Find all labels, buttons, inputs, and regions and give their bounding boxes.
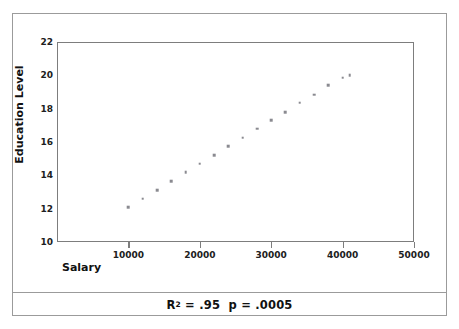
y-axis-tick-label: 20 — [31, 70, 53, 80]
y-axis-tick-label: 16 — [31, 137, 53, 147]
data-point — [156, 189, 159, 192]
x-axis-tick-mark — [414, 242, 415, 248]
y-axis-tick-labels: 10121416182022 — [27, 42, 53, 242]
x-axis-tick-label: 40000 — [327, 250, 358, 260]
y-axis-tick-label: 10 — [31, 237, 53, 247]
x-axis-tick-label: 20000 — [184, 250, 215, 260]
x-axis-tick-mark — [128, 242, 129, 248]
data-point — [341, 77, 344, 80]
figure-root: 10121416182022 Education Level 100002000… — [0, 0, 459, 329]
x-axis-tick-mark — [271, 242, 272, 248]
data-point — [327, 84, 330, 87]
y-axis-tick-label: 18 — [31, 104, 53, 114]
data-point — [313, 93, 316, 96]
data-point — [141, 197, 144, 200]
data-point — [284, 111, 287, 114]
data-point — [213, 154, 216, 157]
x-axis-tick-mark — [343, 242, 344, 248]
x-axis-tick-label: 10000 — [113, 250, 144, 260]
data-point — [270, 119, 273, 122]
data-point — [170, 180, 173, 183]
data-point — [348, 74, 351, 77]
x-axis-tick-label: 50000 — [398, 250, 429, 260]
x-axis-tick-label: 30000 — [256, 250, 287, 260]
scatter-plot-canvas — [57, 42, 414, 242]
data-point — [241, 137, 244, 140]
figure-caption: R2 = .95 p = .0005 — [13, 294, 446, 315]
data-point — [227, 145, 230, 148]
y-axis-tick-label: 14 — [31, 170, 53, 180]
data-point — [256, 127, 259, 130]
data-point — [298, 102, 301, 105]
x-axis-tick-mark — [200, 242, 201, 248]
y-axis-tick-label: 12 — [31, 204, 53, 214]
caption-divider — [13, 292, 446, 293]
data-point — [184, 171, 187, 174]
data-point — [199, 162, 202, 165]
x-axis-title: Salary — [62, 261, 101, 274]
caption-r-symbol: R — [166, 298, 175, 312]
data-point — [127, 206, 130, 209]
caption-statistics: = .95 p = .0005 — [181, 298, 293, 312]
y-axis-title: Education Level — [13, 60, 26, 170]
y-axis-tick-label: 22 — [31, 37, 53, 47]
